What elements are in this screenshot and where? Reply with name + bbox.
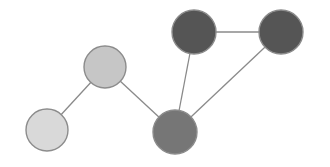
node-n4: [172, 10, 216, 54]
node-n1: [26, 109, 68, 151]
nodes-layer: [26, 10, 303, 154]
node-n3: [153, 110, 197, 154]
node-n2: [84, 46, 126, 88]
graph-diagram: [0, 0, 330, 167]
node-n5: [259, 10, 303, 54]
